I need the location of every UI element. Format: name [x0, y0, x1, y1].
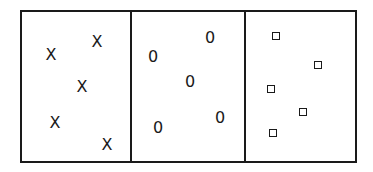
- square-marker: [269, 129, 277, 137]
- square-marker: [267, 85, 275, 93]
- x-marker: X: [92, 34, 103, 50]
- o-marker: 0: [185, 74, 195, 90]
- panel-divider-2: [244, 10, 246, 163]
- x-marker: X: [102, 137, 113, 153]
- o-marker: 0: [205, 30, 215, 46]
- o-marker: 0: [148, 49, 158, 65]
- panel-divider-1: [130, 10, 132, 163]
- o-marker: 0: [153, 120, 163, 136]
- x-marker: X: [77, 79, 88, 95]
- square-marker: [299, 108, 307, 116]
- square-marker: [272, 32, 280, 40]
- square-marker: [314, 61, 322, 69]
- x-marker: X: [46, 47, 57, 63]
- o-marker: 0: [215, 110, 225, 126]
- x-marker: X: [50, 115, 61, 131]
